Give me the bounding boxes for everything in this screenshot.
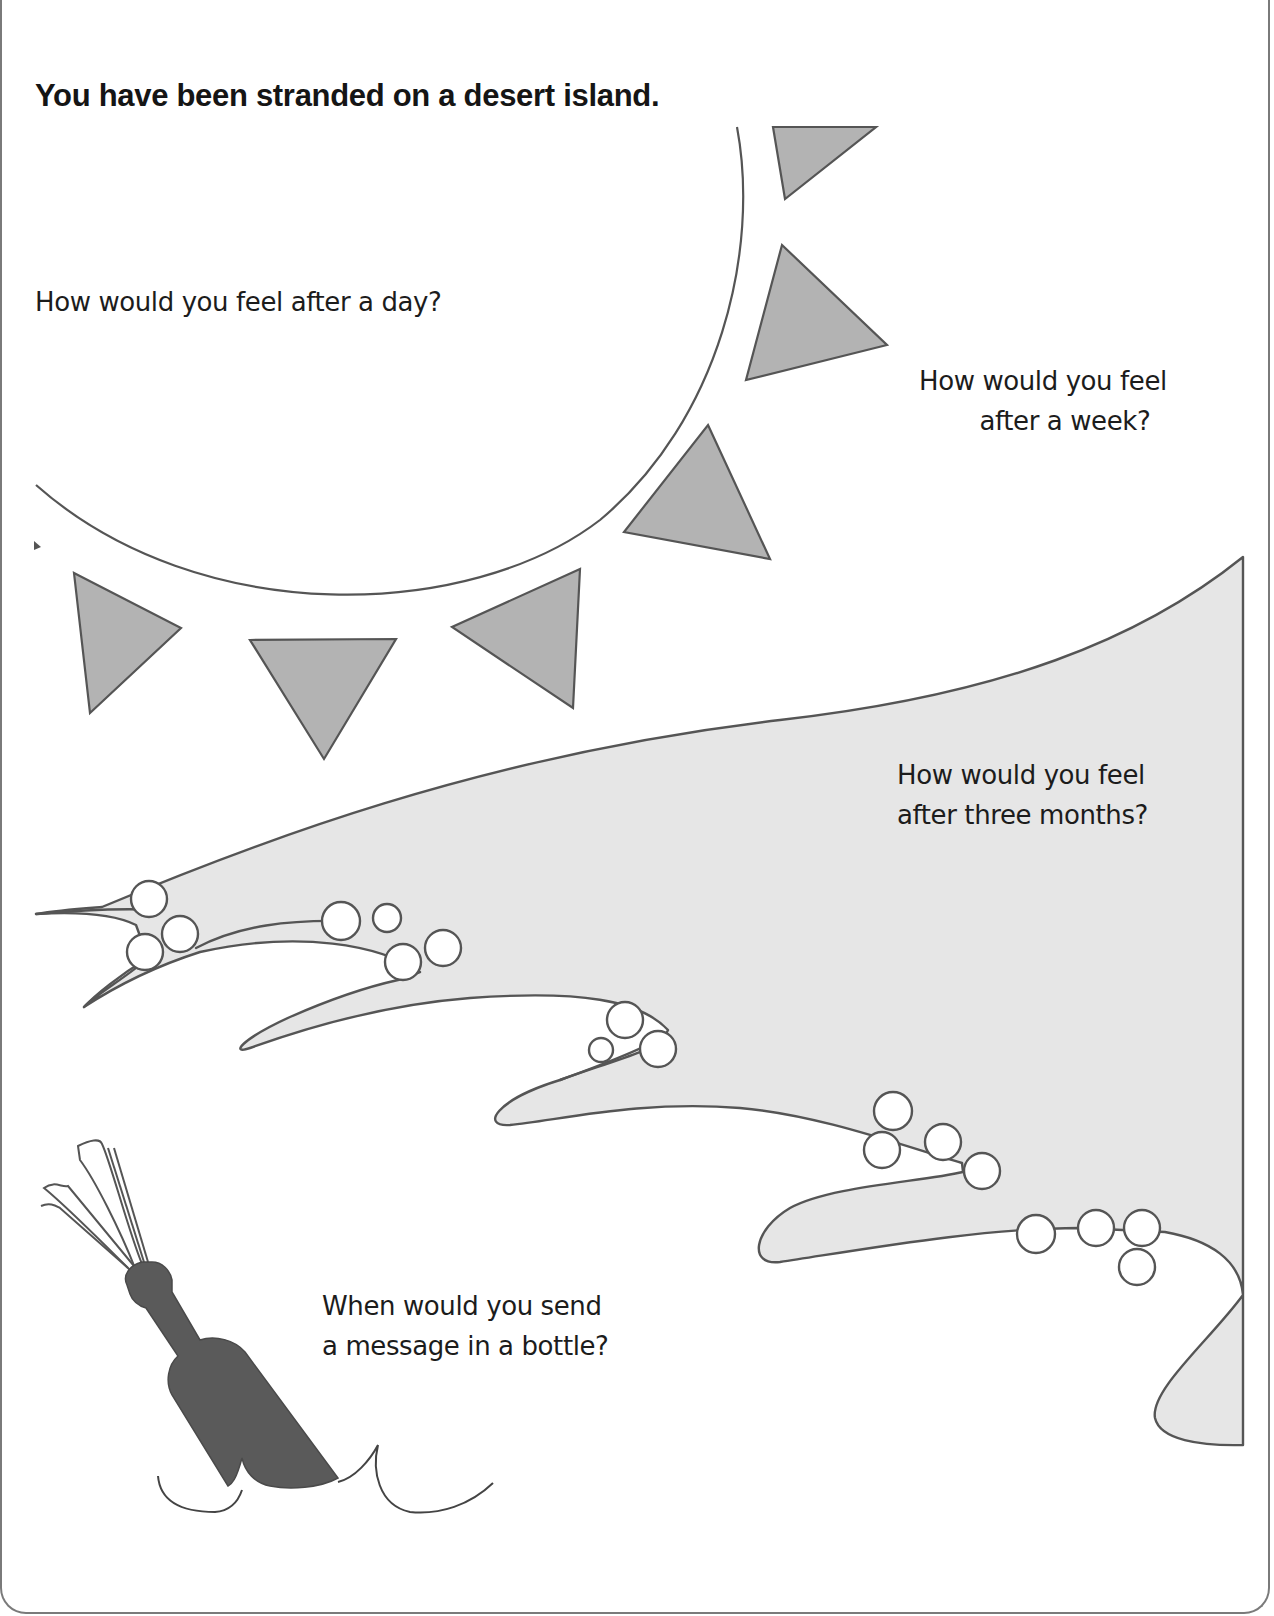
question-after-a-week: How would you feel after a week? — [919, 361, 1167, 441]
water-ripple — [338, 1445, 493, 1513]
foam-bubble — [373, 904, 401, 932]
bottle-body — [125, 1262, 338, 1488]
sun-ray — [624, 425, 770, 559]
sun-icon — [34, 127, 887, 759]
question-line: a message in a bottle? — [322, 1326, 609, 1366]
sun-ray — [452, 569, 580, 708]
question-line: How would you feel after a day? — [35, 282, 442, 322]
foam-bubble — [385, 944, 421, 980]
sun-ray — [773, 127, 876, 199]
foam-bubble — [131, 881, 167, 917]
sun-ray — [250, 639, 396, 759]
foam-bubble — [1119, 1249, 1155, 1285]
foam-bubble — [425, 930, 461, 966]
question-line: after three months? — [897, 795, 1148, 835]
foam-bubble — [1078, 1210, 1114, 1246]
foam-bubble — [874, 1092, 912, 1130]
foam-bubble — [864, 1132, 900, 1168]
sun-ray-fragment — [34, 541, 41, 550]
question-line: When would you send — [322, 1286, 609, 1326]
question-after-three-months: How would you feel after three months? — [897, 755, 1148, 835]
worksheet-title: You have been stranded on a desert islan… — [35, 78, 659, 114]
wave-body — [36, 557, 1243, 1445]
foam-bubble — [589, 1038, 613, 1062]
question-after-a-day: How would you feel after a day? — [35, 282, 442, 322]
question-line: How would you feel — [919, 361, 1167, 401]
question-line: How would you feel — [897, 755, 1148, 795]
foam-bubble — [607, 1002, 643, 1038]
foam-bubble — [322, 902, 360, 940]
question-message-in-bottle: When would you send a message in a bottl… — [322, 1286, 609, 1366]
worksheet-page: You have been stranded on a desert islan… — [0, 0, 1274, 1616]
question-line: after a week? — [919, 401, 1167, 441]
wave-icon — [36, 557, 1243, 1445]
foam-bubble — [127, 934, 163, 970]
sun-ray — [74, 573, 181, 713]
foam-bubble — [1017, 1215, 1055, 1253]
foam-bubble — [640, 1031, 676, 1067]
foam-bubble — [162, 916, 198, 952]
foam-bubble — [925, 1124, 961, 1160]
paper-scroll-icon — [41, 1140, 148, 1270]
sun-ray — [746, 245, 887, 380]
foam-bubble — [964, 1153, 1000, 1189]
foam-bubble — [1124, 1210, 1160, 1246]
